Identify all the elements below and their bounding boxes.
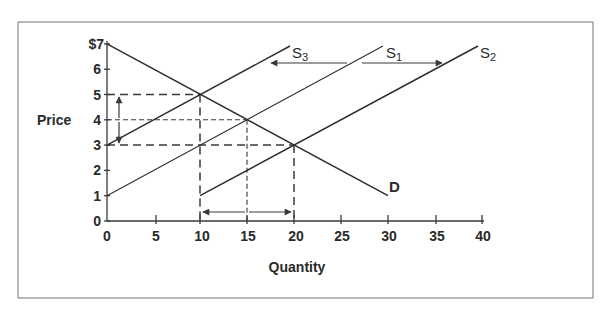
x-axis-title: Quantity: [269, 259, 326, 275]
y-tick-label: 4: [93, 112, 101, 128]
label-s3: S3: [292, 44, 308, 63]
x-tick-label: 20: [288, 228, 304, 244]
label-demand: D: [389, 178, 400, 195]
x-tick-label: 15: [240, 228, 256, 244]
x-tick-label: 40: [475, 228, 491, 244]
y-tick-label: 5: [93, 87, 101, 103]
x-tick-label: 30: [381, 228, 397, 244]
y-tick-label: 1: [93, 188, 101, 204]
y-tick-label: 3: [93, 137, 101, 153]
supply-demand-chart: 0 1 2 3 4 5 6 $7 0 5 10 15 20 25 30 35 4…: [0, 0, 609, 317]
x-tick-label: 35: [429, 228, 445, 244]
label-s2: S2: [480, 44, 496, 63]
y-tick-label: $7: [88, 36, 104, 52]
x-tick-label: 5: [152, 228, 160, 244]
supply-curve-s1: [107, 46, 383, 196]
equilibrium-guides: [107, 95, 294, 222]
supply-curve-s2: [200, 46, 478, 196]
y-tick-label: 2: [93, 162, 101, 178]
x-tick-label: 25: [334, 228, 350, 244]
axes: [107, 41, 484, 221]
y-tick-label: 0: [93, 213, 101, 229]
y-tick-label: 6: [93, 61, 101, 77]
label-s1: S1: [386, 44, 402, 63]
y-axis-title: Price: [37, 112, 71, 128]
supply-curve-s3: [107, 46, 290, 145]
x-ticks: [156, 215, 482, 224]
y-tick-labels: 0 1 2 3 4 5 6 $7: [88, 36, 104, 229]
x-tick-labels: 0 5 10 15 20 25 30 35 40: [103, 228, 491, 244]
x-tick-label: 0: [103, 228, 111, 244]
curves: [107, 44, 478, 196]
x-tick-label: 10: [194, 228, 210, 244]
